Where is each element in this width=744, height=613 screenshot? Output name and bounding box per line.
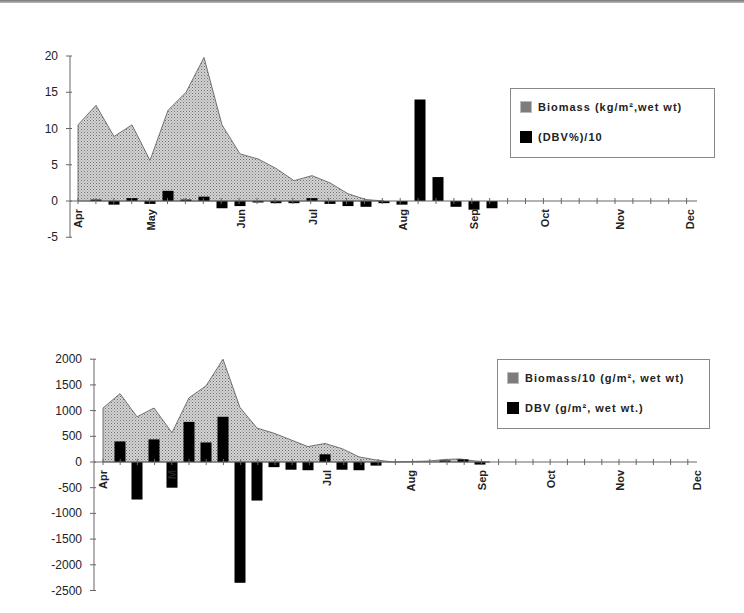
y-tick-label: 1000	[55, 404, 82, 418]
y-tick-label: 0	[75, 455, 82, 469]
x-month-label: Jun	[235, 209, 247, 229]
dbv-bar	[235, 462, 246, 583]
dbv-bar	[337, 462, 348, 470]
dbv-bar	[132, 462, 143, 500]
dbv-bar	[320, 454, 331, 462]
solid-swatch-icon	[507, 402, 519, 414]
x-month-label: Apr	[72, 208, 84, 228]
bottom-chart-legend: Biomass/10 (g/m², wet wt) DBV (g/m², wet…	[497, 359, 710, 429]
top-chart-legend: Biomass (kg/m²,wet wt) (DBV%)/10	[510, 88, 715, 158]
dbv-bar	[469, 201, 480, 210]
dbv-bar	[487, 201, 498, 208]
y-tick-label: -2500	[51, 584, 82, 598]
x-month-label: Dec	[684, 209, 696, 229]
y-tick-label: 5	[51, 158, 58, 172]
biomass-area	[78, 57, 384, 201]
x-month-label: May	[145, 208, 157, 230]
y-tick-label: 0	[51, 194, 58, 208]
y-tick-label: 10	[45, 122, 59, 136]
x-month-label: Nov	[614, 469, 626, 491]
solid-swatch-icon	[520, 131, 532, 143]
dotted-swatch-icon	[507, 372, 519, 384]
legend-label-dbv: DBV (g/m², wet wt.)	[525, 402, 644, 414]
legend-label-biomass: Biomass/10 (g/m², wet wt)	[525, 372, 684, 384]
dbv-bar	[397, 201, 408, 205]
y-tick-label: 15	[45, 85, 59, 99]
dbv-bar	[218, 417, 229, 462]
x-month-label: Dec	[691, 470, 703, 490]
dbv-bar	[354, 462, 365, 470]
y-tick-label: -5	[47, 230, 58, 244]
y-tick-label: -500	[58, 481, 82, 495]
dbv-bar	[371, 462, 382, 466]
x-month-label: Aug	[405, 470, 417, 491]
legend-label-biomass: Biomass (kg/m²,wet wt)	[538, 101, 682, 113]
dbv-bar	[451, 201, 462, 207]
x-month-label: Jul	[321, 470, 333, 486]
dbv-bar	[252, 462, 263, 501]
legend-item-biomass: Biomass (kg/m²,wet wt)	[520, 101, 682, 113]
x-month-label: M	[166, 470, 178, 479]
y-tick-label: 1500	[55, 378, 82, 392]
x-month-label: Aug	[397, 209, 409, 230]
dbv-bar	[269, 462, 280, 467]
x-month-label: Sep	[476, 470, 488, 490]
legend-label-dbv: (DBV%)/10	[538, 131, 603, 143]
dbv-bar	[149, 439, 160, 462]
dbv-bar	[184, 422, 195, 462]
y-tick-label: 500	[62, 429, 82, 443]
x-month-label: Oct	[539, 209, 551, 228]
dbv-bar	[433, 177, 444, 201]
x-month-label: Sep	[468, 209, 480, 229]
dbv-bar	[343, 201, 354, 206]
x-month-label: Oct	[545, 470, 557, 489]
y-tick-label: 20	[45, 49, 59, 63]
y-tick-label: -1500	[51, 532, 82, 546]
dbv-bar	[415, 100, 426, 202]
legend-item-dbv: (DBV%)/10	[520, 131, 603, 143]
x-month-label: Nov	[614, 208, 626, 230]
dbv-bar	[303, 462, 314, 470]
dbv-bar	[217, 201, 228, 208]
legend-item-dbv: DBV (g/m², wet wt.)	[507, 402, 644, 414]
dbv-bar	[286, 462, 297, 470]
dotted-swatch-icon	[520, 101, 532, 113]
legend-item-biomass: Biomass/10 (g/m², wet wt)	[507, 372, 684, 384]
dbv-bar	[115, 441, 126, 462]
y-tick-label: -2000	[51, 558, 82, 572]
dbv-bar	[199, 197, 210, 201]
y-tick-label: 2000	[55, 352, 82, 366]
x-month-label: Jul	[307, 209, 319, 225]
dbv-bar	[361, 201, 372, 207]
biomass-area	[103, 359, 490, 462]
x-month-label: Apr	[97, 469, 109, 489]
dbv-bar	[235, 201, 246, 206]
y-tick-label: -1000	[51, 506, 82, 520]
